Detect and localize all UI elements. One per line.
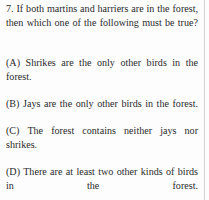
stem-choices-gap bbox=[6, 43, 198, 57]
choice-d-text: There are at least two other kinds of bi… bbox=[6, 166, 198, 191]
choice-c-label: (C) bbox=[6, 125, 19, 136]
choice-d[interactable]: (D) There are at least two other kinds o… bbox=[6, 165, 198, 200]
page-column-rule bbox=[204, 0, 205, 200]
choice-c[interactable]: (C) The forest contains neither jays nor… bbox=[6, 124, 198, 165]
choice-a-text: Shrikes are the only other birds in the … bbox=[6, 57, 198, 82]
choice-b-label: (B) bbox=[6, 98, 19, 109]
question-stem: 7. If both martins and harriers are in t… bbox=[6, 2, 198, 43]
scanned-question-page: 7. If both martins and harriers are in t… bbox=[0, 0, 209, 200]
question-text-column: 7. If both martins and harriers are in t… bbox=[6, 2, 198, 200]
choice-d-label: (D) bbox=[6, 166, 20, 177]
choice-c-text: The forest contains neither jays nor shr… bbox=[6, 125, 198, 150]
choice-a-label: (A) bbox=[6, 57, 20, 68]
choice-b[interactable]: (B) Jays are the only other birds in the… bbox=[6, 97, 198, 124]
choice-a[interactable]: (A) Shrikes are the only other birds in … bbox=[6, 56, 198, 97]
choice-b-text: Jays are the only other birds in the for… bbox=[23, 98, 198, 109]
